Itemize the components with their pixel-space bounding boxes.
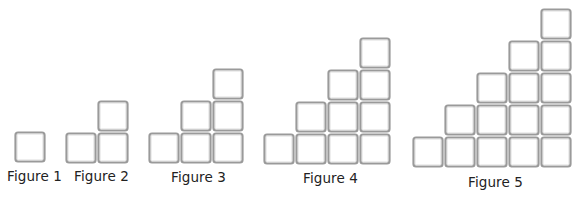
square-cell (478, 106, 507, 135)
figure-1-label: Figure 1 (7, 170, 62, 184)
square-cell (542, 106, 571, 135)
square-cell (542, 138, 571, 167)
square-cell (297, 103, 326, 132)
square-cell (446, 138, 475, 167)
square-cell (182, 134, 211, 163)
figure-3-label: Figure 3 (171, 171, 226, 185)
square-cell (297, 135, 326, 164)
square-cell (67, 134, 96, 163)
square-cell (99, 134, 128, 163)
square-cell (510, 106, 539, 135)
square-cell (361, 103, 390, 132)
square-cell (329, 103, 358, 132)
square-cell (214, 70, 243, 99)
square-cell (265, 135, 294, 164)
square-cell (329, 71, 358, 100)
square-cell (478, 74, 507, 103)
square-cell (329, 135, 358, 164)
square-cell (510, 74, 539, 103)
figure-3-squares (150, 70, 243, 163)
square-cell (542, 10, 571, 39)
square-cell (414, 138, 443, 167)
square-cell (478, 138, 507, 167)
square-cell (361, 71, 390, 100)
square-cell (510, 138, 539, 167)
figure-1-squares (16, 133, 45, 162)
square-cell (16, 133, 45, 162)
square-cell (150, 134, 179, 163)
square-cell (182, 102, 211, 131)
square-cell (510, 42, 539, 71)
figure-5-squares (414, 10, 571, 167)
square-cell (542, 74, 571, 103)
figure-5-label: Figure 5 (468, 176, 523, 190)
square-cell (446, 106, 475, 135)
staircase-figures-diagram: Figure 1 Figure 2 Figure 3 Figure 4 Figu… (0, 0, 578, 197)
square-cell (361, 39, 390, 68)
square-cell (542, 42, 571, 71)
figure-4-label: Figure 4 (303, 172, 358, 186)
figure-2-squares (67, 102, 128, 163)
square-cell (361, 135, 390, 164)
figure-4-squares (265, 39, 390, 164)
square-cell (214, 102, 243, 131)
square-cell (214, 134, 243, 163)
square-cell (99, 102, 128, 131)
figure-2-label: Figure 2 (74, 170, 129, 184)
